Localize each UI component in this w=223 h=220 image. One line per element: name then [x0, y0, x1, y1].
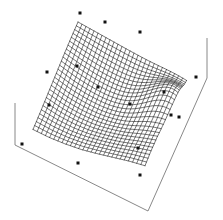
surface-mesh-group [33, 22, 187, 166]
data-point-marker [97, 86, 100, 89]
data-point-marker [178, 116, 181, 119]
data-point-marker [46, 71, 49, 74]
data-point-marker [104, 21, 107, 24]
data-point-marker [76, 65, 79, 68]
plot-canvas [0, 0, 223, 220]
axis-base-lines [15, 78, 207, 211]
surface-plot-svg [0, 0, 223, 220]
data-point-marker [77, 162, 80, 165]
data-point-marker [163, 91, 166, 94]
mesh-line [71, 37, 182, 86]
data-point-marker [195, 76, 198, 79]
data-point-marker [139, 174, 142, 177]
data-point-marker [139, 31, 142, 34]
data-point-marker [137, 147, 140, 150]
data-point-marker [170, 114, 173, 117]
data-point-marker [48, 104, 51, 107]
data-point-marker [79, 12, 82, 15]
data-point-marker [129, 103, 132, 106]
data-point-marker [21, 143, 24, 146]
mesh-line [63, 57, 178, 93]
mesh-line [70, 42, 114, 146]
